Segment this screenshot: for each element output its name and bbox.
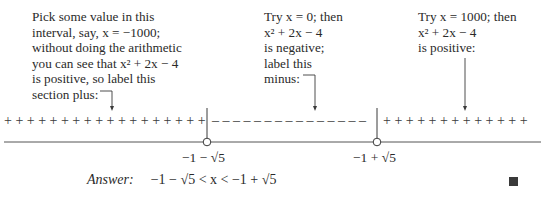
arrowhead-middle-icon [313,106,317,111]
number-line-graphics [0,0,543,200]
open-circle-right-root-icon [373,138,381,146]
root-label-left: −1 − √5 [182,150,225,166]
arrow-middle [303,75,315,108]
arrowhead-left-icon [110,106,114,111]
root-label-right: −1 + √5 [353,150,396,166]
answer-label: Answer: [87,172,134,187]
open-circle-left-root-icon [203,138,211,146]
answer-expression: −1 − √5 < x < −1 + √5 [151,172,277,187]
arrow-left [100,91,112,108]
answer-line: Answer: −1 − √5 < x < −1 + √5 [87,172,276,188]
qed-square-icon [509,177,518,186]
arrowhead-right-icon [463,106,467,111]
